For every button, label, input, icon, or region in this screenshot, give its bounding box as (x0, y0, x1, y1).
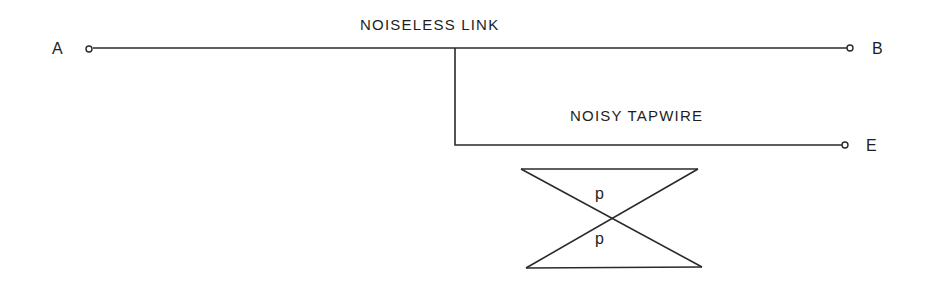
node-b: B (847, 40, 883, 57)
node-b-label: B (872, 40, 883, 57)
noiseless-link: NOISELESS LINK (93, 16, 847, 48)
terminal-e-icon (842, 142, 848, 148)
node-a: A (52, 40, 92, 57)
tapwire-label: NOISY TAPWIRE (570, 107, 703, 124)
noiseless-link-label: NOISELESS LINK (360, 16, 499, 33)
noisy-tapwire: NOISY TAPWIRE (455, 48, 842, 145)
node-e: E (842, 137, 877, 154)
channel-bottom-probability: p (595, 230, 604, 247)
binary-symmetric-channel: p p (521, 169, 702, 268)
terminal-b-icon (847, 45, 853, 51)
channel-top-probability: p (595, 185, 604, 202)
channel-bottom-edge (526, 267, 702, 268)
terminal-a-icon (86, 46, 92, 52)
node-e-label: E (866, 137, 877, 154)
node-a-label: A (52, 40, 63, 57)
wiretap-channel-diagram: NOISELESS LINK A B NOISY TAPWIRE E p p (0, 0, 927, 296)
channel-crossover-up (526, 169, 698, 268)
tapwire-wire (455, 48, 842, 145)
